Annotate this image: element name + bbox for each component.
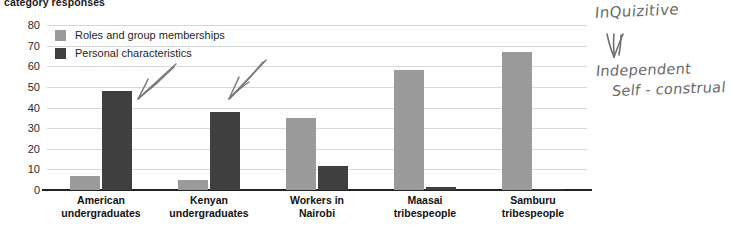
chart-legend: Roles and group memberships Personal cha… xyxy=(55,27,225,63)
y-axis-tick: 0 xyxy=(34,184,40,196)
page-title: category responses xyxy=(4,0,105,8)
x-axis-label: Kenyan undergraduates xyxy=(155,194,263,220)
pencil-arrow-right-icon xyxy=(222,58,268,108)
figure-root: category responses 01020304050607080 Rol… xyxy=(0,0,732,234)
bar-group xyxy=(479,25,587,190)
bar xyxy=(102,91,132,190)
x-axis-label: American undergraduates xyxy=(47,194,155,220)
pencil-arrow-left-icon xyxy=(132,62,178,108)
bar xyxy=(394,70,424,190)
y-axis-tick: 40 xyxy=(28,102,40,114)
legend-item-personal: Personal characteristics xyxy=(55,45,225,61)
y-axis-tick: 60 xyxy=(28,60,40,72)
bar-group xyxy=(263,25,371,190)
handwritten-note-independent: Independent xyxy=(595,60,692,79)
bar xyxy=(426,187,456,190)
bar-group xyxy=(371,25,479,190)
bar xyxy=(210,112,240,190)
bar xyxy=(318,166,348,190)
y-axis-tick: 80 xyxy=(28,19,40,31)
x-axis-label: Samburu tribespeople xyxy=(479,194,587,220)
bar xyxy=(178,180,208,190)
bar xyxy=(534,189,564,191)
y-axis-tick: 30 xyxy=(28,122,40,134)
y-axis-tick: 20 xyxy=(28,143,40,155)
handwritten-note-self-construal: Self - construal xyxy=(611,79,726,99)
legend-label-roles: Roles and group memberships xyxy=(75,29,225,41)
legend-swatch-icon-roles xyxy=(55,30,66,41)
legend-item-roles: Roles and group memberships xyxy=(55,27,225,43)
x-axis-label: Workers in Nairobi xyxy=(263,194,371,220)
down-arrow-icon xyxy=(601,32,641,64)
y-axis-tick: 10 xyxy=(28,163,40,175)
handwritten-note-inquizitive: InQuizitive xyxy=(594,0,679,22)
y-axis-tick: 70 xyxy=(28,40,40,52)
x-axis-label: Maasai tribespeople xyxy=(371,194,479,220)
legend-label-personal: Personal characteristics xyxy=(75,47,192,59)
bar xyxy=(502,52,532,190)
y-axis-tick: 50 xyxy=(28,81,40,93)
legend-swatch-icon-personal xyxy=(55,48,66,59)
bar xyxy=(286,118,316,190)
bar xyxy=(70,176,100,190)
